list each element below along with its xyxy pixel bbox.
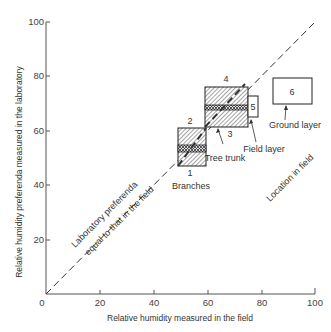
label-6: 6: [289, 87, 294, 97]
y-tick-40: 40: [33, 179, 44, 190]
label-5: 5: [250, 102, 255, 112]
label-location-in-field: Location in field: [264, 152, 315, 203]
label-field-layer: Field layer: [243, 144, 285, 154]
y-tick-100: 100: [28, 16, 44, 27]
x-tick-80: 80: [257, 297, 268, 308]
label-4: 4: [223, 74, 228, 84]
x-tick-40: 40: [149, 297, 160, 308]
label-tree-trunk: Tree trunk: [205, 153, 246, 163]
x-axis-title: Relative humidity measured in the field: [107, 313, 253, 323]
x-tick-0: 0: [39, 297, 44, 308]
label-3: 3: [227, 129, 232, 139]
humidity-chart: 100 80 60 40 20 0 20 40 60 80 100 Relati…: [0, 0, 331, 332]
box-tree-trunk: [205, 84, 248, 127]
y-tick-80: 80: [33, 70, 44, 81]
y-tick-labels: 100 80 60 40 20: [28, 16, 44, 245]
label-ground-layer: Ground layer: [269, 120, 321, 130]
x-tick-20: 20: [95, 297, 106, 308]
x-tick-labels: 0 20 40 60 80 100: [39, 297, 323, 308]
label-2: 2: [187, 116, 192, 126]
x-tick-60: 60: [203, 297, 214, 308]
x-tick-100: 100: [307, 297, 323, 308]
y-axis-title: Relative humidity preferenda measured in…: [14, 65, 24, 277]
box-branches: [178, 128, 206, 166]
diagonal-label: Laboratory preferenda equal to that in t…: [69, 174, 155, 260]
label-1: 1: [187, 168, 192, 178]
label-branches: Branches: [172, 181, 211, 191]
y-tick-60: 60: [33, 125, 44, 136]
y-tick-20: 20: [33, 234, 44, 245]
